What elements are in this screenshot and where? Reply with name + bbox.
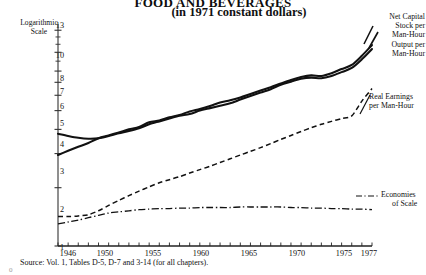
plot-area <box>0 0 426 275</box>
axes <box>55 24 373 246</box>
chart-figure: FOOD AND BEVERAGES (in 1971 constant dol… <box>0 0 426 275</box>
series-line-economies-of-scale <box>58 207 372 224</box>
leader-output-per-man-hour <box>369 32 378 48</box>
series-line-output-per-man-hour <box>58 45 372 155</box>
leader-net-capital-stock <box>364 26 373 44</box>
data-series <box>58 45 372 224</box>
series-line-net-capital-stock <box>58 49 372 139</box>
leader-real-earnings <box>360 95 370 114</box>
